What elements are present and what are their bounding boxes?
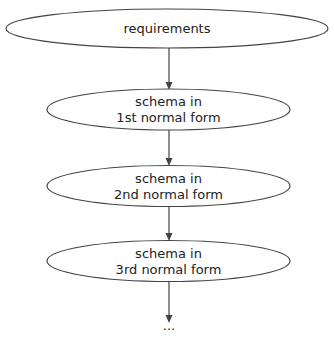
arrowhead-icon: [166, 233, 173, 241]
node-label-line1: schema in: [135, 246, 202, 261]
node-label-line1: schema in: [135, 94, 202, 109]
edge-requirements-to-1nf: [166, 48, 173, 90]
continuation-label: ...: [163, 318, 175, 333]
edge-2nf-to-3nf: [166, 207, 173, 242]
arrowhead-icon: [166, 158, 173, 166]
node-3rd-normal-form: schema in 3rd normal form: [47, 241, 290, 282]
node-label-line1: schema in: [135, 171, 202, 186]
node-1st-normal-form: schema in 1st normal form: [47, 89, 290, 130]
node-continuation: ...: [163, 318, 175, 333]
node-2nd-normal-form: schema in 2nd normal form: [47, 166, 290, 207]
node-label: requirements: [124, 21, 211, 36]
node-label-line2: 2nd normal form: [114, 187, 223, 202]
node-label-line2: 3rd normal form: [116, 262, 222, 277]
normalization-diagram: requirements schema in 1st normal form s…: [0, 0, 334, 339]
node-requirements: requirements: [6, 9, 328, 48]
edge-1nf-to-2nf: [166, 130, 173, 166]
node-label-line2: 1st normal form: [116, 110, 220, 125]
edge-3nf-to-continuation: [166, 282, 173, 324]
